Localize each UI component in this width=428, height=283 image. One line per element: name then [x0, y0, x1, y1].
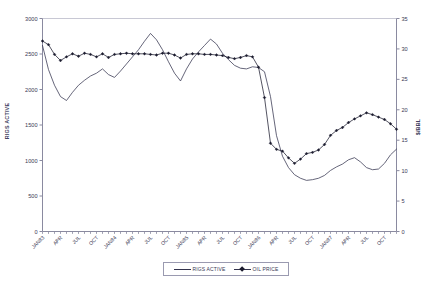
series-line-oil-price [43, 41, 397, 163]
data-point-marker [233, 57, 236, 60]
y-axis-right-tick-label: 10 [402, 168, 408, 174]
data-point-marker [83, 52, 86, 55]
data-point-marker [173, 54, 176, 57]
x-axis-tick-label: OCT [231, 234, 244, 247]
x-axis-tick-label: OCT [375, 234, 388, 247]
x-axis-tick-label: JAN85 [174, 234, 189, 249]
data-point-marker [359, 114, 362, 117]
x-axis-tick-label: APR [52, 234, 64, 246]
x-axis-tick-label: JUL [215, 234, 226, 245]
data-point-marker [191, 52, 194, 55]
x-axis-tick-label: JAN83 [30, 234, 45, 249]
data-point-marker [131, 52, 134, 55]
y-axis-right-tick-label: 20 [402, 107, 408, 113]
y-axis-right-tick-label: 30 [402, 46, 408, 52]
x-axis-tick-label: JUL [287, 234, 298, 245]
data-point-marker [149, 53, 152, 56]
data-point-marker [119, 52, 122, 55]
series-markers-oil-price [41, 40, 398, 165]
y-axis-right-tick-label: 15 [402, 137, 408, 143]
data-point-marker [239, 56, 242, 59]
y-axis-left-tick-label: 3000 [25, 16, 37, 22]
x-axis-tick-label: JAN86 [246, 234, 261, 249]
y-axis-left-tick-label: 2000 [25, 87, 37, 93]
data-point-marker [209, 53, 212, 56]
x-axis-tick-label: APR [124, 234, 136, 246]
y-axis-right-tick-label: 35 [402, 16, 408, 22]
x-axis-tick-label: JUL [359, 234, 370, 245]
data-point-marker [125, 52, 128, 55]
legend-item-rigs-active: RIGS ACTIVE [174, 266, 226, 273]
data-point-marker [113, 53, 116, 56]
data-point-marker [71, 52, 74, 55]
data-point-marker [203, 53, 206, 56]
y-axis-right-title: $/BBL [415, 107, 421, 147]
data-point-marker [167, 52, 170, 55]
legend-label-oil-price: OIL PRICE [253, 266, 279, 272]
data-point-marker [143, 52, 146, 55]
x-axis-tick-label: JAN87 [318, 234, 333, 249]
legend-diamond-marker-icon [234, 266, 251, 273]
y-axis-left-tick-label: 1500 [25, 122, 37, 128]
x-axis-tick-label: JUL [71, 234, 82, 245]
y-axis-right-tick-label: 0 [402, 229, 405, 235]
data-point-marker [95, 55, 98, 58]
legend-line-icon [174, 266, 191, 273]
data-point-marker [365, 111, 368, 114]
chart-plot: 05001000150020002500300005101520253035JA… [0, 0, 428, 283]
data-point-marker [263, 96, 266, 99]
y-axis-left-title: RIGS ACTIVE [4, 101, 10, 141]
data-point-marker [155, 54, 158, 57]
y-axis-left-tick-label: 1000 [25, 158, 37, 164]
y-axis-right-tick-label: 5 [402, 198, 405, 204]
x-axis-tick-label: APR [340, 234, 352, 246]
y-axis-left-tick-label: 500 [28, 193, 37, 199]
x-axis-tick-label: APR [196, 234, 208, 246]
x-axis-tick-label: OCT [159, 234, 172, 247]
data-point-marker [371, 113, 374, 116]
data-point-marker [137, 52, 140, 55]
x-axis-tick-label: APR [268, 234, 280, 246]
x-axis-tick-label: JUL [143, 234, 154, 245]
y-axis-left-tick-label: 2500 [25, 51, 37, 57]
x-axis-tick-label: OCT [303, 234, 316, 247]
data-point-marker [377, 116, 380, 119]
x-axis-tick-label: OCT [87, 234, 100, 247]
data-point-marker [89, 53, 92, 56]
data-point-marker [311, 151, 314, 154]
x-axis-tick-label: JAN84 [102, 234, 117, 249]
y-axis-right-tick-label: 25 [402, 76, 408, 82]
chart-legend: RIGS ACTIVE OIL PRICE [163, 262, 289, 276]
data-point-marker [245, 54, 248, 57]
chart-container: 05001000150020002500300005101520253035JA… [0, 0, 428, 283]
data-point-marker [77, 55, 80, 58]
y-axis-left-tick-label: 0 [34, 229, 37, 235]
data-point-marker [215, 54, 218, 57]
legend-item-oil-price: OIL PRICE [234, 266, 279, 273]
legend-label-rigs-active: RIGS ACTIVE [193, 266, 226, 272]
